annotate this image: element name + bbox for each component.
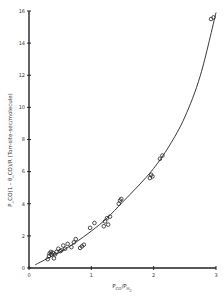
y-tick-label: 4: [22, 201, 25, 207]
y-tick-label: 10: [19, 104, 25, 110]
y-tick-label: 8: [22, 136, 25, 142]
scatter-chart: 01230246810121416 P_CO(1 - θ_CO)/R (Torr…: [0, 0, 224, 296]
axes: [29, 11, 216, 268]
y-tick-label: 0: [22, 265, 25, 271]
y-tick-label: 2: [22, 233, 25, 239]
data-point: [93, 221, 97, 225]
data-point: [102, 224, 106, 228]
data-point: [70, 245, 74, 249]
x-tick-label: 2: [152, 272, 155, 278]
tick-marks: 01230246810121416: [19, 8, 218, 278]
x-tick-label: 0: [27, 272, 30, 278]
y-tick-label: 6: [22, 168, 25, 174]
data-point: [88, 226, 92, 230]
y-tick-label: 14: [19, 40, 25, 46]
y-tick-label: 12: [19, 72, 25, 78]
data-point: [66, 242, 70, 246]
x-tick-label: 1: [90, 272, 93, 278]
data-points: [46, 16, 215, 261]
data-point: [52, 257, 56, 261]
fit-line: [35, 13, 216, 265]
data-point: [106, 223, 110, 227]
data-point: [74, 237, 78, 241]
x-axis-title: PCO/PH2: [112, 283, 132, 293]
y-axis-title: P_CO(1 - θ_CO)/R (Torr-site-sec/molecule…: [7, 93, 14, 206]
fit-curve: [35, 13, 216, 265]
y-tick-label: 16: [19, 8, 25, 14]
x-tick-label: 3: [214, 272, 217, 278]
